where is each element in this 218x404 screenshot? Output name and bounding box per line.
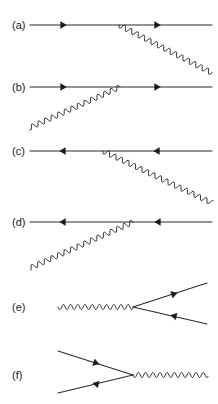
diagram-panel-f: (f) (12, 351, 208, 393)
arrow-head-glyph (155, 84, 161, 91)
arrow-head-glyph (61, 22, 67, 29)
arrow-head-glyph (155, 22, 161, 29)
arrow-head-glyph (154, 148, 160, 155)
diagram-panel-d: (d) (12, 216, 212, 270)
diagram-panel-c: (c) (12, 145, 213, 204)
feynman-diagram-figure: (a)(b)(c)(d)(e)(f) (0, 0, 218, 404)
fermion-arrow-d-2 (155, 219, 161, 226)
photon-line-d (31, 220, 133, 270)
photon-line-b (30, 85, 120, 130)
fermion-arrow-b-1 (61, 84, 67, 91)
photon-line-f (133, 372, 208, 377)
arrow-head-glyph (92, 380, 99, 388)
arrow-head-glyph (93, 359, 101, 367)
fermion-leg-e-2 (133, 307, 207, 324)
arrow-head-glyph (171, 290, 179, 298)
diagram-panel-b: (b) (12, 81, 212, 130)
photon-line-c (103, 151, 213, 204)
fermion-arrow-f-1 (93, 359, 101, 367)
fermion-arrow-b-2 (155, 84, 161, 91)
fermion-arrow-c-1 (60, 148, 66, 155)
fermion-arrow-e-1 (171, 290, 179, 298)
panel-label-a: (a) (12, 19, 25, 31)
fermion-arrow-f-2 (92, 380, 99, 388)
diagram-panel-e: (e) (12, 283, 207, 324)
arrow-head-glyph (60, 148, 66, 155)
fermion-arrow-d-1 (60, 219, 66, 226)
panel-label-e: (e) (12, 301, 25, 313)
photon-line-a (119, 25, 212, 74)
feynman-diagram-canvas: (a)(b)(c)(d)(e)(f) (0, 0, 218, 404)
panel-label-c: (c) (12, 145, 25, 157)
fermion-arrow-c-2 (154, 148, 160, 155)
arrow-head-glyph (61, 84, 67, 91)
fermion-arrow-a-1 (61, 22, 67, 29)
fermion-arrow-a-2 (155, 22, 161, 29)
arrow-head-glyph (155, 219, 161, 226)
fermion-leg-e-1 (133, 283, 207, 307)
panel-label-b: (b) (12, 81, 25, 93)
photon-line-e (58, 304, 133, 309)
panel-label-d: (d) (12, 216, 25, 228)
diagram-panel-a: (a) (12, 19, 212, 74)
panel-label-f: (f) (12, 369, 22, 381)
arrow-head-glyph (60, 219, 66, 226)
